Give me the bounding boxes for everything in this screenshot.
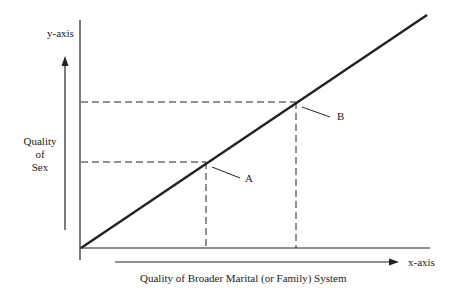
point-b-leader xyxy=(302,107,330,117)
y-title-line-2: of xyxy=(20,148,60,161)
y-axis-label: y-axis xyxy=(47,27,74,40)
y-arrowhead-icon xyxy=(62,56,69,66)
relationship-line xyxy=(81,15,427,248)
y-title-line-3: Sex xyxy=(20,161,60,174)
point-a-leader xyxy=(212,167,240,178)
y-axis-title: Quality of Sex xyxy=(20,135,60,174)
diagram-canvas xyxy=(0,0,454,291)
x-axis-label: x-axis xyxy=(408,256,435,269)
point-a-label: A xyxy=(245,172,253,185)
x-arrowhead-icon xyxy=(389,259,399,266)
x-axis-title: Quality of Broader Marital (or Family) S… xyxy=(140,272,347,285)
y-title-line-1: Quality xyxy=(20,135,60,148)
point-b-label: B xyxy=(337,110,344,123)
